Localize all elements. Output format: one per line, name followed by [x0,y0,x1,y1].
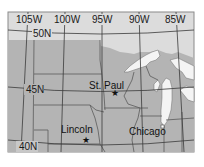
lat-label-40n: 40N [19,141,37,152]
city-label-lincoln: Lincoln [61,124,93,135]
city-chicago: Chicago [129,125,166,137]
lon-label-105w: 105W [16,14,43,25]
longitude-labels: 105W 100W 95W 90W 85W [14,14,191,25]
map: 105W 100W 95W 90W 85W 50N 45N 40N St. Pa… [0,0,204,167]
star-icon: ★ [82,135,90,145]
lat-label-45n: 45N [26,84,44,95]
square-marker-icon [161,125,164,128]
lat-label-50n: 50N [33,28,51,39]
lon-label-95w: 95W [92,14,113,25]
lon-label-90w: 90W [129,14,150,25]
city-label-chicago: Chicago [129,126,166,137]
lon-label-85w: 85W [165,14,186,25]
lon-label-100w: 100W [54,14,81,25]
star-icon: ★ [111,88,119,98]
